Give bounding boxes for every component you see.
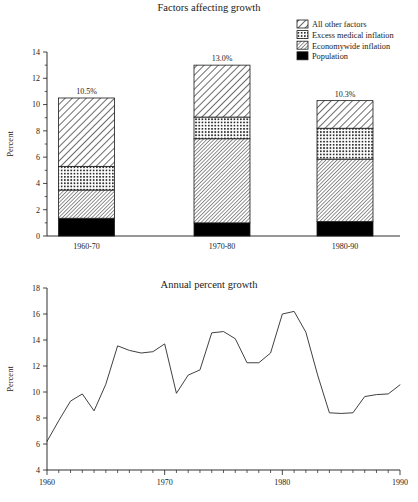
line-chart-annual-percent-growth: Annual percent growth 4681012141618 1960… [5,279,408,487]
line-y-tick-label: 12 [32,362,40,371]
bar-chart-factors-affecting-growth: Factors affecting growth 02468101214 Per… [5,2,400,251]
line-x-tick-label: 1980 [274,478,290,487]
bar-x-tick-labels: 1960-701970-801980-90 [73,242,358,251]
bar-total-label: 10.3% [335,90,356,99]
figure-root: Factors affecting growth 02468101214 Per… [0,0,418,502]
line-series-path [47,311,400,441]
bar-legend: All other factorsExcess medical inflatio… [297,20,394,61]
legend-label: Excess medical inflation [312,31,394,40]
bar-segment [194,117,250,139]
line-x-tick-label: 1970 [157,478,173,487]
bar-segment [317,101,373,129]
legend-label: All other factors [312,20,366,29]
bar-segment [59,190,115,218]
bar-y-tick-label: 14 [32,48,40,57]
bar-segment [59,218,115,236]
bar-segment [194,65,250,117]
line-y-tick-label: 16 [32,310,40,319]
line-x-tick-label: 1960 [39,478,55,487]
bar-y-tick-label: 6 [36,153,40,162]
bar-y-tick-label: 0 [36,232,40,241]
legend-label: Population [312,52,349,61]
bar-segment [59,166,115,190]
bar-series-group [59,65,374,236]
bar-total-label: 10.5% [76,87,97,96]
bar-y-tick-label: 4 [36,179,40,188]
charts-svg: Factors affecting growth 02468101214 Per… [0,0,418,502]
bar-x-tick-label: 1970-80 [209,242,236,251]
line-x-tick-label: 1990 [392,478,408,487]
bar-y-tick-label: 2 [36,206,40,215]
bar-x-tick-label: 1980-90 [332,242,359,251]
bar-chart-title: Factors affecting growth [157,2,261,13]
line-y-tick-label: 4 [36,466,40,475]
bar-y-ticks: 02468101214 [32,48,47,241]
line-y-tick-label: 18 [32,284,40,293]
bar-segment [194,223,250,236]
bar-x-tick-label: 1960-70 [73,242,100,251]
line-y-tick-label: 8 [36,414,40,423]
legend-swatch [297,20,308,28]
line-y-tick-label: 10 [32,388,40,397]
bar-y-tick-label: 10 [32,100,40,109]
bar-segment [317,128,373,159]
legend-swatch [297,41,308,49]
bar-y-axis-label: Percent [5,131,15,157]
bar-total-label: 13.0% [212,54,233,63]
line-y-ticks: 4681012141618 [32,284,47,475]
line-y-tick-label: 6 [36,440,40,449]
bar-segment [194,139,250,223]
legend-swatch [297,31,308,39]
legend-label: Economywide inflation [312,42,391,51]
line-y-axis-label: Percent [5,366,15,392]
line-y-tick-label: 14 [32,336,40,345]
bar-segment [317,159,373,221]
line-chart-title: Annual percent growth [161,279,259,290]
line-x-ticks: 1960197019801990 [39,470,408,487]
bar-segment [59,98,115,166]
bar-y-tick-label: 12 [32,74,40,83]
bar-segment [317,222,373,236]
bar-y-tick-label: 8 [36,127,40,136]
legend-swatch [297,52,308,60]
